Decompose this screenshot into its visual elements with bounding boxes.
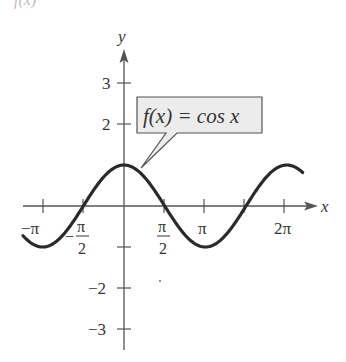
svg-text:2: 2	[159, 240, 167, 257]
svg-text:2: 2	[78, 240, 86, 257]
callout-label: f(x) = cos x	[143, 104, 240, 128]
tick-label-neg-half-pi: − π 2	[65, 218, 89, 257]
tick-label-y-neg2: −2	[88, 279, 106, 298]
y-axis	[117, 49, 131, 350]
svg-text:π: π	[158, 218, 166, 235]
stray-dot	[159, 280, 161, 282]
svg-text:π: π	[77, 218, 85, 235]
tick-label-y-neg3: −3	[88, 320, 106, 339]
cosine-graph: x y −π − π 2 π 2 π 2π 3 2 −2 −3 f(x) = c…	[0, 0, 346, 362]
tick-label-neg-pi: −π	[21, 219, 40, 238]
function-callout: f(x) = cos x	[137, 97, 262, 168]
tick-label-half-pi: π 2	[157, 218, 170, 257]
tick-label-y3: 3	[102, 74, 111, 93]
tick-label-2pi: 2π	[274, 219, 292, 238]
svg-text:−: −	[65, 228, 74, 245]
y-axis-label: y	[116, 27, 126, 46]
x-axis-label: x	[320, 197, 329, 216]
tick-label-y2: 2	[102, 115, 111, 134]
x-axis	[23, 199, 318, 213]
tick-label-pi: π	[198, 219, 207, 238]
